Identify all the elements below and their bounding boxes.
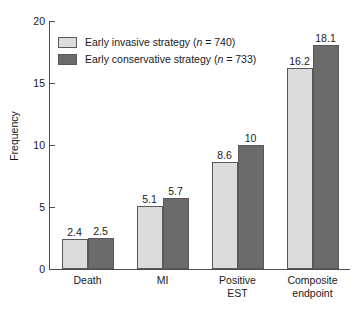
bar-value-label: 18.1	[315, 32, 335, 44]
y-axis-tick-label: 15	[33, 76, 45, 90]
x-axis-category-label: PositiveEST	[200, 274, 275, 300]
x-axis-category-line: endpoint	[275, 287, 350, 300]
x-axis-line	[49, 269, 350, 270]
bar-group: 16.218.1	[275, 21, 350, 269]
y-axis-tick-label: 5	[39, 200, 45, 214]
bar[interactable]: 16.2	[287, 68, 313, 269]
y-axis-tick-label: 10	[33, 138, 45, 152]
legend-item[interactable]: Early invasive strategy (n = 740)	[58, 35, 256, 49]
bar-value-label: 16.2	[289, 55, 309, 67]
legend-swatch	[58, 54, 77, 65]
bar-value-label: 10	[245, 132, 257, 144]
chart-legend: Early invasive strategy (n = 740)Early c…	[58, 35, 256, 69]
bar-value-label: 2.5	[93, 225, 108, 237]
legend-label: Early conservative strategy (n = 733)	[85, 53, 256, 65]
bar[interactable]: 2.4	[62, 239, 88, 269]
x-axis-category-line: Composite	[275, 274, 350, 287]
bar[interactable]: 5.1	[137, 206, 163, 269]
bar-value-label: 2.4	[67, 226, 82, 238]
y-axis-title: Frequency	[8, 91, 20, 181]
x-axis-category-label: MI	[125, 274, 200, 287]
bar[interactable]: 2.5	[88, 238, 114, 269]
legend-swatch	[58, 37, 77, 48]
bar-value-label: 5.1	[142, 193, 157, 205]
x-axis-category-line: EST	[200, 287, 275, 300]
y-axis-tick-label: 0	[39, 262, 45, 276]
bar[interactable]: 8.6	[212, 162, 238, 269]
x-axis-category-line: Death	[50, 274, 125, 287]
bar-value-label: 5.7	[168, 185, 183, 197]
y-axis-tick-label: 20	[33, 14, 45, 28]
x-axis-category-line: MI	[125, 274, 200, 287]
bar[interactable]: 10	[238, 145, 264, 269]
bar[interactable]: 5.7	[163, 198, 189, 269]
bar-chart: Frequency 05101520 2.42.55.15.78.61016.2…	[0, 0, 361, 322]
legend-label: Early invasive strategy (n = 740)	[85, 36, 235, 48]
bar-value-label: 8.6	[217, 149, 232, 161]
legend-item[interactable]: Early conservative strategy (n = 733)	[58, 52, 256, 66]
x-axis-category-label: Death	[50, 274, 125, 287]
x-axis-category-line: Positive	[200, 274, 275, 287]
bar[interactable]: 18.1	[313, 45, 339, 269]
x-axis-category-label: Compositeendpoint	[275, 274, 350, 300]
